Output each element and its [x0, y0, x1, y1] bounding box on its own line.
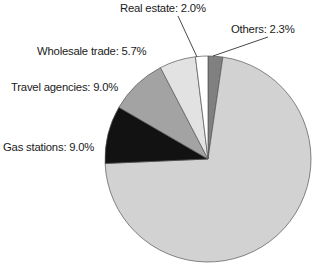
slice-label-wholesale-trade: Wholesale trade: 5.7%	[37, 45, 146, 58]
leader-line-real-estate	[178, 16, 197, 57]
slice-label-gas-stations: Gas stations: 9.0%	[3, 141, 94, 154]
pie-slice-group	[105, 56, 311, 262]
pie-chart-canvas	[0, 0, 322, 270]
slice-label-others: Others: 2.3%	[231, 23, 295, 36]
leader-line-others	[213, 37, 268, 56]
slice-label-travel-agencies: Travel agencies: 9.0%	[11, 81, 118, 94]
slice-label-real-estate: Real estate: 2.0%	[120, 2, 206, 15]
pie-chart-figure: Real estate: 2.0% Others: 2.3% Wholesale…	[0, 0, 322, 270]
